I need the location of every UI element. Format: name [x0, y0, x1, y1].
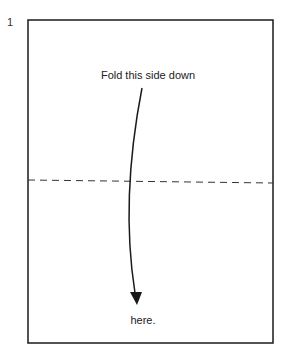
arrow-head-icon	[130, 292, 142, 305]
paper-diagram	[0, 0, 294, 358]
fold-line	[28, 180, 273, 183]
instruction-bottom: here.	[130, 314, 155, 326]
instruction-top: Fold this side down	[101, 69, 195, 81]
fold-arrow-shaft	[129, 88, 142, 293]
